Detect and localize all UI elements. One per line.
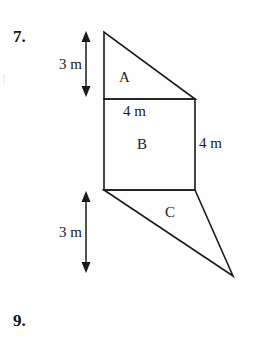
- composite-figure-drawing: [0, 0, 260, 341]
- worksheet-page: 7. A B C 3 m 4 m 4 m 3 m 9.: [0, 0, 260, 341]
- triangle-c-shape: [104, 190, 233, 276]
- bottom-dimension-arrow: [82, 191, 91, 273]
- dimension-label-top-height: 3 m: [59, 57, 82, 72]
- dimension-label-square-top-width: 4 m: [123, 104, 146, 119]
- top-dimension-arrow: [82, 31, 91, 97]
- region-label-a: A: [119, 70, 130, 85]
- region-label-b: B: [137, 137, 147, 152]
- dimension-label-square-right-height: 4 m: [199, 136, 222, 151]
- region-label-c: C: [165, 205, 175, 220]
- square-b-shape: [104, 99, 195, 190]
- triangle-a-shape: [104, 32, 195, 99]
- dimension-label-bottom-height: 3 m: [59, 225, 82, 240]
- question-number-9: 9.: [13, 312, 26, 329]
